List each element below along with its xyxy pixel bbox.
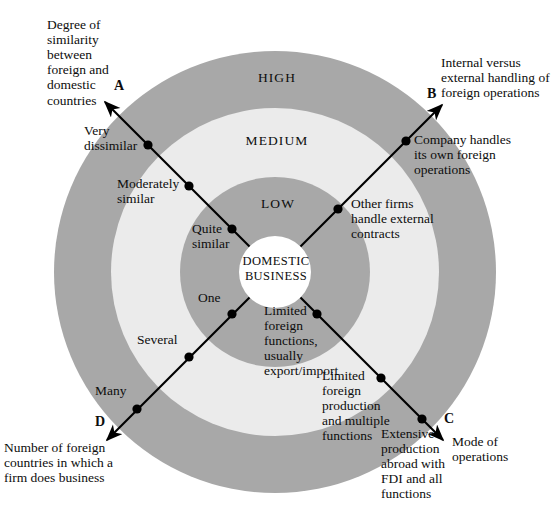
axis-d-caption: Number of foreign countries in which a f… bbox=[4, 440, 124, 485]
axis-a-letter: A bbox=[114, 78, 124, 94]
ring-label-low: LOW bbox=[243, 196, 313, 211]
ring-label-high: HIGH bbox=[237, 70, 317, 85]
axis-d-tick-2 bbox=[184, 352, 193, 361]
axis-a-tick-label-very-dissimilar: Very dissimilar bbox=[84, 123, 158, 153]
axis-c-tick-3 bbox=[417, 414, 426, 423]
axis-c-letter: C bbox=[444, 411, 454, 427]
axis-a-tick-label-moderately-similar: Moderately similar bbox=[117, 176, 203, 206]
core-label-domestic-business: DOMESTIC BUSINESS bbox=[236, 254, 316, 284]
diagram-canvas: HIGH MEDIUM LOW DOMESTIC BUSINESS Degree… bbox=[0, 0, 556, 505]
axis-b-tick-label-other-firms: Other firms handle external contracts bbox=[351, 196, 455, 241]
axis-b-letter: B bbox=[427, 86, 436, 102]
axis-a-tick-label-quite-similar: Quite similar bbox=[192, 221, 242, 251]
ring-label-medium: MEDIUM bbox=[229, 133, 325, 148]
axis-b-tick-2 bbox=[333, 204, 342, 213]
axis-d-tick-1 bbox=[227, 309, 236, 318]
axis-d-tick-3 bbox=[132, 404, 141, 413]
axis-b-tick-1 bbox=[401, 136, 410, 145]
axis-d-tick-label-many: Many bbox=[95, 383, 145, 398]
axis-a-caption: Degree of similarity between foreign and… bbox=[47, 17, 163, 108]
axis-b-caption: Internal versus external handling of for… bbox=[441, 55, 556, 100]
axis-c-tick-label-extensive-production: Extensive production abroad with FDI and… bbox=[381, 426, 467, 502]
axis-d-tick-label-one: One bbox=[198, 290, 240, 305]
axis-d-letter: D bbox=[95, 414, 105, 430]
axis-d-tick-label-several: Several bbox=[137, 332, 197, 347]
axis-b-tick-label-company-handles: Company handles its own foreign operatio… bbox=[414, 132, 536, 177]
